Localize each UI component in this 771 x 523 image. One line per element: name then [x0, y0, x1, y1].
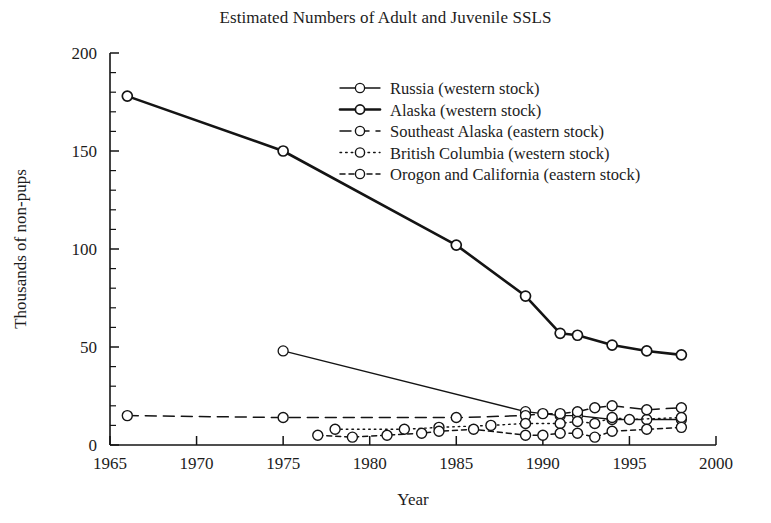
legend-item-2[interactable]: Southeast Alaska (eastern stock): [340, 122, 604, 141]
data-point-marker: [122, 411, 132, 421]
data-point-marker: [607, 401, 617, 411]
y-axis-title: Thousands of non-pups: [11, 169, 30, 329]
x-axis-tick-label: 1975: [266, 454, 300, 473]
data-point-marker: [607, 426, 617, 436]
y-axis-tick-label: 50: [80, 338, 97, 357]
data-point-marker: [538, 409, 548, 419]
data-point-marker: [607, 413, 617, 423]
series-line: [318, 427, 682, 437]
legend-label: Orogon and California (eastern stock): [390, 165, 640, 184]
data-point-marker: [676, 350, 686, 360]
data-point-marker: [642, 424, 652, 434]
data-point-marker: [642, 405, 652, 415]
data-point-marker: [330, 424, 340, 434]
x-axis-tick-labels: 19651970197519801985199019952000: [93, 454, 733, 473]
legend-marker: [355, 148, 364, 157]
data-point-marker: [278, 346, 288, 356]
legend-marker: [355, 169, 364, 178]
legend-marker: [355, 126, 364, 135]
data-point-marker: [555, 428, 565, 438]
y-axis-tick-label: 0: [89, 436, 98, 455]
data-point-marker: [122, 91, 132, 101]
chart-figure: Estimated Numbers of Adult and Juvenile …: [0, 0, 771, 523]
data-point-marker: [278, 413, 288, 423]
series-2: [122, 401, 686, 423]
y-axis-tick-label: 100: [72, 240, 98, 259]
series-0: [278, 346, 686, 425]
legend-item-1[interactable]: Alaska (western stock): [340, 101, 541, 120]
series-line: [283, 351, 681, 420]
x-axis-tick-label: 1995: [612, 454, 646, 473]
x-axis-ticks: [110, 436, 716, 445]
data-point-marker: [590, 432, 600, 442]
data-point-marker: [590, 418, 600, 428]
data-point-marker: [278, 146, 288, 156]
series-4: [313, 422, 687, 442]
chart-legend: Russia (western stock)Alaska (western st…: [340, 79, 640, 184]
y-axis-ticks: [110, 53, 119, 445]
x-axis-tick-label: 1990: [526, 454, 560, 473]
y-axis-tick-labels: 050100150200: [72, 44, 98, 455]
data-point-marker: [451, 240, 461, 250]
data-point-marker: [642, 346, 652, 356]
data-point-marker: [521, 430, 531, 440]
x-axis-tick-label: 1965: [93, 454, 127, 473]
data-point-marker: [521, 291, 531, 301]
data-point-marker: [555, 409, 565, 419]
x-axis-tick-label: 1980: [353, 454, 387, 473]
data-point-marker: [555, 328, 565, 338]
data-point-marker: [572, 416, 582, 426]
data-point-marker: [676, 413, 686, 423]
data-point-marker: [434, 426, 444, 436]
data-point-marker: [572, 407, 582, 417]
data-point-marker: [538, 430, 548, 440]
data-point-marker: [676, 403, 686, 413]
data-point-marker: [572, 428, 582, 438]
data-point-marker: [382, 430, 392, 440]
legend-marker: [355, 105, 364, 114]
chart-plot-area: 050100150200 196519701975198019851990199…: [0, 0, 771, 523]
legend-marker: [355, 83, 364, 92]
x-axis-tick-label: 1985: [439, 454, 473, 473]
legend-item-4[interactable]: Orogon and California (eastern stock): [340, 165, 640, 184]
data-point-marker: [451, 413, 461, 423]
legend-item-3[interactable]: British Columbia (western stock): [340, 144, 610, 163]
data-point-marker: [555, 418, 565, 428]
legend-item-0[interactable]: Russia (western stock): [340, 79, 539, 98]
legend-label: Russia (western stock): [390, 79, 539, 98]
data-point-marker: [607, 340, 617, 350]
x-axis-tick-label: 2000: [699, 454, 733, 473]
data-point-marker: [521, 418, 531, 428]
data-point-marker: [399, 424, 409, 434]
data-point-marker: [469, 424, 479, 434]
x-axis-tick-label: 1970: [180, 454, 214, 473]
legend-label: British Columbia (western stock): [390, 144, 610, 163]
data-point-marker: [624, 415, 634, 425]
y-axis-tick-label: 200: [72, 44, 98, 63]
data-point-marker: [486, 420, 496, 430]
data-point-marker: [590, 403, 600, 413]
data-point-marker: [417, 428, 427, 438]
data-point-marker: [347, 432, 357, 442]
x-axis-title: Year: [397, 490, 429, 509]
data-point-marker: [572, 330, 582, 340]
data-point-marker: [676, 422, 686, 432]
y-axis-tick-label: 150: [72, 142, 98, 161]
legend-label: Alaska (western stock): [390, 101, 541, 120]
legend-label: Southeast Alaska (eastern stock): [390, 122, 604, 141]
data-point-marker: [313, 430, 323, 440]
